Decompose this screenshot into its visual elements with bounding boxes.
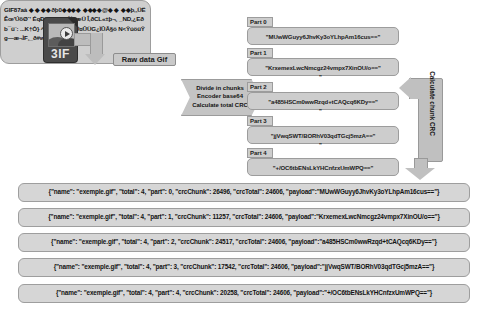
- divide-step-line-1: Divide in chunks: [189, 84, 251, 92]
- arrow-vertical-segment: [90, 33, 103, 56]
- calculate-chunk-crc-step: Calculate chunk CRC: [399, 78, 443, 160]
- divide-step-text: Divide in chunks Encoder base64 Calculat…: [189, 84, 251, 109]
- part-quote-2: ": [319, 108, 322, 114]
- file-extension-label: 3IF: [46, 48, 75, 60]
- part-tag-0: Part 0: [247, 17, 273, 27]
- crc-step-label: Calculate chunk CRC: [429, 71, 436, 137]
- part-payload-0: "MUwWGuyy6JhvKy3oYLhpAm16cus==": [247, 27, 399, 45]
- part-payload-2: "a485HSCm0wwRzqd+tCAQcq6KDy==": [247, 92, 399, 110]
- arrow-icon-to-raw-data: [74, 33, 108, 69]
- arrow-to-json-messages: [405, 158, 435, 180]
- part-quote-3: ": [319, 142, 322, 148]
- arrow-head-down-icon: [405, 168, 435, 180]
- arrow-head-left-icon: [399, 77, 411, 99]
- part-tag-1: Part 1: [247, 48, 273, 58]
- divide-step-line-3: Calculate total CRC: [189, 101, 251, 109]
- part-quote-1: ": [319, 74, 322, 80]
- json-message-row-4: {"name": "exemple.gif", "total": 4, "par…: [18, 284, 470, 303]
- part-tag-3: Part 3: [247, 116, 273, 126]
- arrow-head-down-icon: [85, 54, 105, 65]
- json-message-row-3: {"name": "exemple.gif", "total": 4, "par…: [18, 258, 470, 277]
- json-message-row-2: {"name": "exemple.gif", "total": 4, "par…: [18, 233, 470, 252]
- part-tag-4: Part 4: [247, 148, 273, 158]
- play-icon: [60, 27, 73, 40]
- divide-step-line-2: Encoder base64: [189, 92, 251, 100]
- part-tag-2: Part 2: [247, 82, 273, 92]
- raw-data-label: Raw data Gif: [113, 53, 176, 66]
- gif-chunking-flow-diagram: 3IF Raw data Gif GIF87aà ◆ ◆ ◆◆ðþ0◆◆◆◆ ◆…: [0, 0, 484, 325]
- json-message-row-0: {"name": "exemple.gif", "total": 4, "par…: [18, 183, 470, 202]
- image-thumbnail: [48, 23, 75, 47]
- part-payload-3: "jjVwqSWT/BORhV03qdTGcj5mzA==": [247, 126, 399, 144]
- part-payload-4: "+/OC6tbENsLkYHCnfzxUmWPQ==": [247, 158, 399, 176]
- part-payload-1: "KrxemexLwcNmcgz24vmpx7XinOU/o==": [247, 58, 399, 76]
- play-triangle: [65, 31, 70, 37]
- gif-file-icon: 3IF: [44, 18, 77, 62]
- json-message-row-1: {"name": "exemple.gif", "total": 4, "par…: [18, 208, 470, 227]
